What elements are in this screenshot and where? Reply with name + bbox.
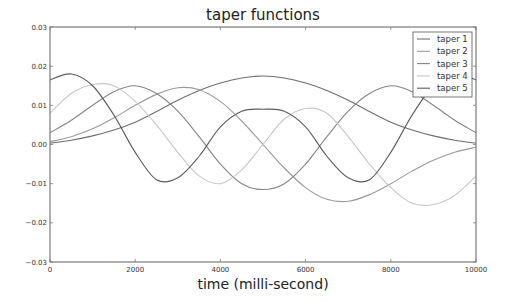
series-line-4 (50, 84, 476, 206)
x-tick-label: 4000 (211, 266, 229, 274)
legend-label: taper 3 (437, 59, 468, 69)
x-tick-label: 8000 (382, 266, 400, 274)
series-group (50, 74, 476, 206)
y-tick-label: 0.03 (31, 24, 47, 32)
y-tick-label: −0.03 (26, 259, 47, 267)
x-tick-label: 2000 (126, 266, 144, 274)
chart-plot: 02000400060008000100000.030.020.010.00−0… (0, 0, 513, 302)
series-line-5 (50, 74, 476, 182)
y-tick-label: 0.01 (31, 102, 47, 110)
legend: taper 1taper 2taper 3taper 4taper 5 (413, 32, 472, 97)
legend-label: taper 5 (437, 83, 468, 93)
y-tick-label: 0.02 (31, 63, 47, 71)
x-tick-label: 6000 (297, 266, 315, 274)
series-line-3 (50, 86, 476, 190)
legend-label: taper 1 (437, 34, 468, 44)
y-tick-label: −0.02 (26, 219, 47, 227)
y-tick-label: −0.01 (26, 180, 47, 188)
y-tick-label: 0.00 (31, 141, 47, 149)
legend-label: taper 2 (437, 46, 468, 56)
legend-label: taper 4 (437, 71, 468, 81)
x-tick-label: 10000 (465, 266, 487, 274)
x-tick-label: 0 (48, 266, 52, 274)
